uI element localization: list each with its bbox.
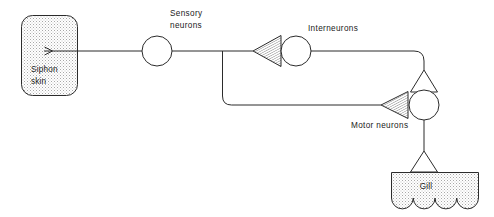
motor-neuron-label: Motor neurons [351, 121, 408, 130]
interneuron-to-motor-line [311, 51, 424, 70]
sensory-neuron-circle [142, 36, 172, 66]
neural-circuit-diagram: Siphon skin Sensory neurons Interneurons [0, 0, 494, 217]
synapse-sensory-to-motor [381, 92, 408, 119]
synapse-sensory-to-interneuron [253, 36, 281, 67]
interneuron-label: Interneurons [308, 24, 358, 33]
open-triangle-icon [411, 70, 438, 92]
motor-neuron-circle [409, 90, 439, 120]
hatched-triangle-icon-2 [381, 92, 408, 119]
synapse-interneuron-to-motor [411, 70, 438, 92]
open-triangle-icon-3 [411, 151, 438, 172]
sensory-neuron-label-line1: Sensory [170, 9, 203, 18]
interneuron-to-motor-connection [311, 51, 424, 70]
synapse-motor-to-gill [411, 151, 438, 172]
gill-node: Gill [392, 173, 479, 209]
gill-shape [392, 173, 479, 209]
siphon-skin-node: Siphon skin [22, 16, 78, 96]
interneuron-node: Interneurons [281, 24, 358, 66]
hatched-triangle-icon [253, 36, 281, 67]
diagram-canvas: Siphon skin Sensory neurons Interneurons [0, 0, 494, 217]
sensory-neuron-node: Sensory neurons [142, 9, 203, 66]
siphon-skin-shape [22, 16, 78, 96]
sensory-neuron-label-line2: neurons [170, 21, 202, 30]
gill-label: Gill [420, 182, 433, 191]
siphon-skin-label-line1: Siphon [31, 65, 58, 74]
siphon-skin-label-line2: skin [31, 77, 47, 86]
interneuron-circle [281, 36, 311, 66]
